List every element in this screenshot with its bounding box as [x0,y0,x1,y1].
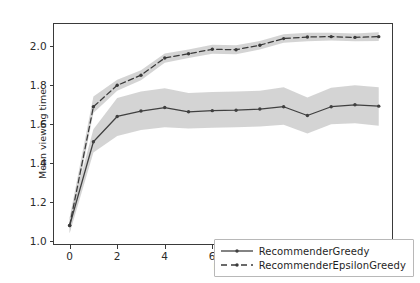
data-point-marker [92,105,95,108]
data-point-marker [258,107,261,110]
data-point-marker [258,44,261,47]
y-tick-label: 2.0 [30,40,47,52]
data-point-marker [92,140,95,143]
figure-canvas: Mean viewing time 1.01.21.41.61.82.0 024… [0,0,420,283]
data-point-marker [163,106,166,109]
data-point-marker [234,109,237,112]
data-point-marker [329,105,332,108]
y-tick-label: 1.8 [30,79,47,91]
data-point-marker [306,35,309,38]
data-point-marker [139,109,142,112]
legend-line-sample-dashed [220,259,254,271]
plot-area [53,23,393,245]
data-point-marker [353,36,356,39]
legend-line-sample-solid [220,245,254,257]
data-point-marker [211,48,214,51]
chart-plot-svg [53,23,393,245]
legend-label: RecommenderGreedy [259,246,370,257]
data-point-marker [377,35,380,38]
data-point-marker [115,115,118,118]
legend-item-recommender-greedy[interactable]: RecommenderGreedy [220,244,406,258]
y-axis-label-container: Mean viewing time [0,23,18,245]
y-tick-label: 1.0 [30,235,47,247]
data-point-marker [377,104,380,107]
data-point-marker [353,103,356,106]
y-tick-label: 1.4 [30,157,47,169]
data-point-marker [187,110,190,113]
x-tick-mark [165,245,166,249]
chart-legend[interactable]: RecommenderGreedy RecommenderEpsilonGree… [214,239,414,277]
data-point-marker [306,114,309,117]
data-point-marker [139,73,142,76]
y-tick-label: 1.6 [30,118,47,130]
data-point-marker [115,84,118,87]
data-point-marker [163,56,166,59]
data-point-marker [211,109,214,112]
data-point-marker [187,52,190,55]
x-tick-mark [117,245,118,249]
data-point-marker [234,48,237,51]
legend-item-recommender-epsilon-greedy[interactable]: RecommenderEpsilonGreedy [220,258,406,272]
data-point-marker [68,224,71,227]
data-point-marker [282,37,285,40]
data-point-marker [329,35,332,38]
x-tick-mark [70,245,71,249]
data-point-marker [282,105,285,108]
legend-label: RecommenderEpsilonGreedy [259,260,406,271]
y-tick-label: 1.2 [30,196,47,208]
